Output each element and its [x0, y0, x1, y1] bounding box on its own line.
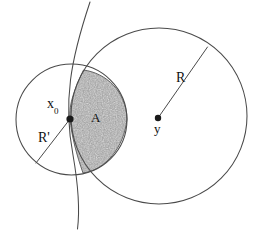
label-x0: x0: [47, 97, 59, 114]
label-x0-base: x: [47, 96, 54, 111]
geometry-illustration: [0, 0, 257, 233]
label-region-a: A: [91, 111, 100, 124]
x0-point-dot: [66, 115, 73, 122]
figure-canvas: x0 R' A R y: [0, 0, 257, 233]
label-y-point: y: [154, 122, 161, 135]
label-x0-subscript: 0: [54, 106, 59, 116]
label-large-radius: R: [176, 71, 185, 85]
label-small-radius: R': [38, 131, 50, 145]
